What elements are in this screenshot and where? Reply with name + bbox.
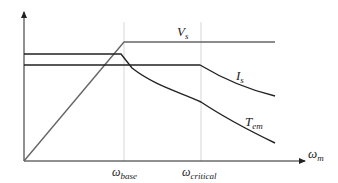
is-label: Is	[235, 68, 244, 85]
wbase-label: ωbase	[112, 165, 137, 181]
tem-label: Tem	[245, 114, 263, 131]
wcritical-label: ωcritical	[182, 165, 217, 181]
torque-speed-diagram: Vs Is Tem ωm ωbase ωcritical	[0, 0, 338, 183]
wm-label: ωm	[308, 146, 324, 163]
vs-curve	[24, 42, 275, 161]
vs-label: Vs	[177, 24, 189, 41]
